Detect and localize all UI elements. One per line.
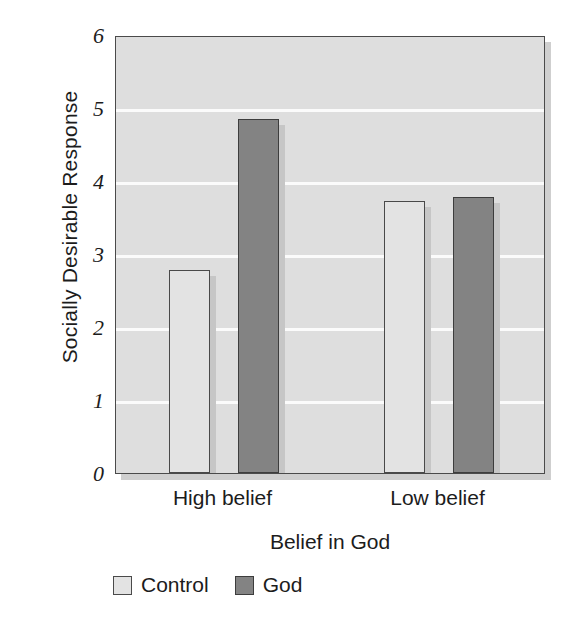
- x-axis-category-low-belief: Low belief: [390, 486, 485, 510]
- plot-area: [115, 36, 545, 474]
- legend-label-god: God: [263, 573, 303, 597]
- x-axis-title: Belief in God: [115, 530, 545, 554]
- bar-high-belief-god: [238, 119, 279, 473]
- y-axis-tick-5: 5: [58, 98, 104, 120]
- legend-swatch-control-icon: [113, 576, 132, 595]
- y-axis-tick-3: 3: [58, 244, 104, 266]
- y-axis-tick-1: 1: [58, 390, 104, 412]
- bar-low-belief-control: [384, 201, 425, 473]
- x-axis-category-labels: High beliefLow belief: [115, 486, 545, 520]
- bar-chart-figure: Socially Desirable Response 0123456 High…: [0, 0, 588, 629]
- bar-low-belief-god: [453, 197, 494, 473]
- legend-label-control: Control: [141, 573, 209, 597]
- x-axis-category-high-belief: High belief: [173, 486, 272, 510]
- y-axis-tick-0: 0: [58, 463, 104, 485]
- y-axis-tick-4: 4: [58, 171, 104, 193]
- y-axis-tick-labels: 0123456: [58, 36, 104, 474]
- chart-legend: ControlGod: [113, 573, 302, 597]
- y-axis-tick-2: 2: [58, 317, 104, 339]
- legend-item-god: God: [235, 573, 303, 597]
- bar-high-belief-control: [169, 270, 210, 473]
- legend-swatch-god-icon: [235, 576, 254, 595]
- gridline-5: [116, 109, 544, 112]
- legend-item-control: Control: [113, 573, 209, 597]
- gridline-4: [116, 182, 544, 185]
- y-axis-tick-6: 6: [58, 25, 104, 47]
